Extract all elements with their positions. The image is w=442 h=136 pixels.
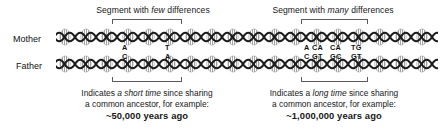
- dna-strand-mother: [56, 27, 438, 47]
- segment-few-heading-pre: Segment with: [96, 5, 151, 15]
- segment-many-heading-emphasis: many: [328, 5, 349, 15]
- segment-many-father-base-1: C: [304, 53, 309, 62]
- bracket-bar: [301, 81, 368, 82]
- bracket-tick-right: [181, 19, 182, 24]
- segment-few-caption-years: ~50,000 years ago: [62, 109, 232, 122]
- bracket-tick-left: [112, 19, 113, 24]
- segment-few-caption-line1-post: since sharing: [161, 88, 213, 98]
- segment-many-caption: Indicates a long time since sharing a co…: [248, 88, 420, 122]
- bracket-bar: [112, 81, 182, 82]
- segment-few-bottom-bracket: [112, 76, 182, 82]
- segment-many-caption-line1-pre: Indicates a: [270, 88, 313, 98]
- row-label-mother: Mother: [13, 34, 41, 44]
- segment-many-heading: Segment with many differences: [262, 5, 404, 15]
- bracket-bar: [301, 19, 368, 20]
- segment-many-heading-pre: Segment with: [272, 5, 327, 15]
- segment-many-father-base-3: GC: [330, 53, 341, 62]
- segment-few-caption-line2: a common ancestor, for example:: [85, 99, 209, 109]
- bracket-tick-left: [301, 19, 302, 24]
- bracket-tick-left: [112, 77, 113, 82]
- bracket-tick-left: [301, 77, 302, 82]
- segment-few-father-base-1: C: [122, 53, 127, 62]
- bracket-bar: [112, 19, 182, 20]
- segment-many-caption-line1-emphasis: long time: [313, 88, 347, 98]
- segment-few-top-bracket: [112, 19, 182, 25]
- segment-few-caption-line1-pre: Indicates: [81, 88, 117, 98]
- segment-many-top-bracket: [301, 19, 368, 25]
- segment-few-heading-post: differences: [165, 5, 210, 15]
- row-label-father: Father: [16, 61, 42, 71]
- segment-many-caption-years: ~1,000,000 years ago: [248, 109, 420, 122]
- segment-many-father-base-4: GT: [351, 53, 362, 62]
- segment-many-bottom-bracket: [301, 76, 368, 82]
- segment-many-caption-line1-post: since sharing: [347, 88, 399, 98]
- segment-many-caption-line2: a common ancestor, for example:: [272, 99, 396, 109]
- segment-few-heading-emphasis: few: [151, 5, 165, 15]
- dna-strand-father: [56, 54, 438, 74]
- segment-few-father-base-2: A: [165, 53, 170, 62]
- bracket-tick-right: [367, 19, 368, 24]
- figure-canvas: Segment with few differences Segment wit…: [0, 0, 442, 136]
- segment-many-father-base-2: GT: [312, 53, 323, 62]
- segment-few-caption-line1-emphasis: a short time: [117, 88, 161, 98]
- segment-few-heading: Segment with few differences: [86, 5, 220, 15]
- bracket-tick-right: [181, 77, 182, 82]
- bracket-tick-right: [367, 77, 368, 82]
- segment-many-heading-post: differences: [349, 5, 394, 15]
- segment-few-caption: Indicates a short time since sharing a c…: [62, 88, 232, 122]
